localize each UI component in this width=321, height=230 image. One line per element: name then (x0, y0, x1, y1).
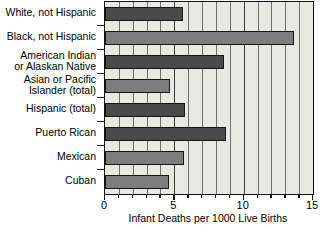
y-axis-tick (97, 25, 104, 26)
x-axis-minor-tick (132, 194, 133, 198)
x-axis-minor-tick (118, 194, 119, 198)
y-axis-tick (97, 49, 104, 50)
category-label: White, not Hispanic (0, 7, 96, 19)
y-axis-tick (97, 97, 104, 98)
y-axis-tick (97, 169, 104, 170)
y-axis-tick (97, 145, 104, 146)
x-axis-tick-label: 10 (228, 199, 258, 211)
x-axis-minor-tick (159, 194, 160, 198)
infant-mortality-bar-chart: White, not HispanicBlack, not HispanicAm… (0, 0, 321, 230)
bar (105, 127, 226, 141)
bar (105, 7, 183, 21)
x-axis-minor-tick (298, 194, 299, 198)
bar (105, 103, 185, 117)
category-label: Black, not Hispanic (0, 31, 96, 43)
bar (105, 55, 224, 69)
y-axis-tick (97, 121, 104, 122)
bar (105, 31, 294, 45)
x-axis-minor-tick (284, 194, 285, 198)
bar (105, 175, 169, 189)
x-axis-tick-label: 5 (158, 199, 188, 211)
bar (105, 151, 184, 165)
category-label: Asian or Pacific Islander (total) (0, 74, 96, 97)
category-label: Puerto Rican (0, 127, 96, 139)
x-axis-tick-labels: 051015 (0, 199, 321, 213)
plot-area (104, 1, 314, 195)
x-axis-minor-tick (215, 194, 216, 198)
x-axis-tick-label: 15 (297, 199, 321, 211)
category-label: American Indian or Alaskan Native (0, 50, 96, 73)
y-axis-tick (97, 73, 104, 74)
x-axis-title: Infant Deaths per 1000 Live Births (104, 212, 312, 225)
bar (105, 79, 170, 93)
x-axis-minor-tick (270, 194, 271, 198)
x-axis-minor-tick (187, 194, 188, 198)
x-axis-minor-tick (257, 194, 258, 198)
category-label: Cuban (0, 175, 96, 187)
category-label: Mexican (0, 151, 96, 163)
category-label: Hispanic (total) (0, 103, 96, 115)
x-axis-minor-tick (201, 194, 202, 198)
y-axis-category-labels: White, not HispanicBlack, not HispanicAm… (0, 0, 96, 194)
x-axis-tick-label: 0 (89, 199, 119, 211)
bar-series (105, 2, 313, 194)
x-axis-minor-tick (146, 194, 147, 198)
x-axis-minor-tick (229, 194, 230, 198)
